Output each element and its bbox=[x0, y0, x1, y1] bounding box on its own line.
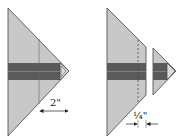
trim-diagram: 2" ¼" bbox=[0, 0, 188, 139]
right-measurement-label: ¼" bbox=[133, 110, 147, 121]
left-figure: 2" bbox=[8, 8, 69, 136]
left-tip bbox=[60, 63, 69, 80]
right-figure: ¼" bbox=[107, 8, 176, 136]
left-measurement-label: 2" bbox=[50, 97, 61, 108]
